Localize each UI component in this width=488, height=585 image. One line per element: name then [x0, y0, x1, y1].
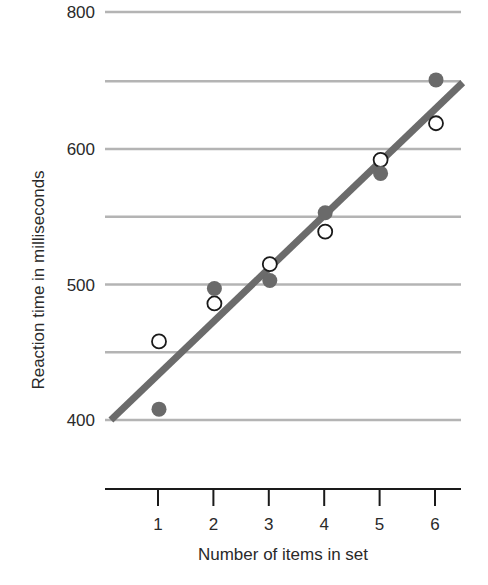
x-tick-label: 3 — [264, 515, 273, 534]
y-tick-label: 600 — [67, 140, 95, 159]
x-tick-label: 2 — [209, 515, 218, 534]
y-axis-title: Reaction time in milliseconds — [29, 170, 48, 389]
filled-circle-point — [373, 166, 388, 181]
x-tick-label: 4 — [319, 515, 328, 534]
x-axis-title: Number of items in set — [198, 545, 368, 564]
scatter-chart: 400500600800 123456 Number of items in s… — [0, 0, 488, 585]
x-tick-label: 1 — [153, 515, 162, 534]
filled-circle-point — [152, 402, 167, 417]
open-circle-point — [429, 116, 443, 130]
x-tick-label: 6 — [430, 515, 439, 534]
open-circle-point — [207, 296, 221, 310]
filled-circle-point — [318, 205, 333, 220]
open-circle-point — [318, 225, 332, 239]
y-gridlines — [105, 12, 461, 420]
y-tick-labels: 400500600800 — [67, 3, 95, 430]
y-tick-label: 500 — [67, 276, 95, 295]
y-tick-label: 400 — [67, 411, 95, 430]
filled-circle-point — [207, 281, 222, 296]
y-tick-label: 800 — [67, 3, 95, 22]
filled-circle-point — [429, 72, 444, 87]
x-tick-label: 5 — [375, 515, 384, 534]
open-circle-point — [152, 334, 166, 348]
open-circle-point — [263, 257, 277, 271]
regression-line — [111, 83, 463, 420]
filled-circle-point — [262, 273, 277, 288]
open-circle-point — [374, 153, 388, 167]
x-ticks: 123456 — [153, 489, 439, 534]
